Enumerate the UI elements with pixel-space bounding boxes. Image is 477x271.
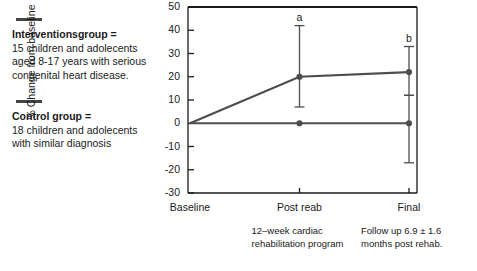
annotation-label: b: [406, 32, 412, 44]
data-point-marker: [296, 120, 302, 126]
data-point-marker: [406, 69, 412, 75]
chart-plot-area: % Change from baseline 50403020100-10-20…: [0, 0, 477, 271]
annotation-label: a: [297, 11, 303, 23]
annotation-group: ab: [297, 11, 413, 44]
data-point-marker: [406, 120, 412, 126]
x-axis-ticks: [300, 188, 410, 193]
chart-svg: ab: [0, 0, 477, 271]
data-point-marker: [296, 74, 302, 80]
y-axis-ticks: [188, 7, 194, 193]
data-series-group: [190, 26, 414, 163]
plot-frame: [188, 7, 417, 193]
